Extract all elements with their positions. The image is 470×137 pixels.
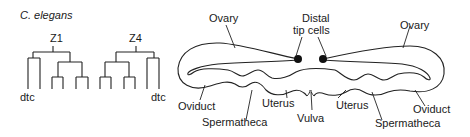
z4-label: Z4 [129,32,142,44]
left-ovary-inner [188,60,335,79]
oviduct-left-label: Oviduct [178,100,215,112]
oviduct-right-label: Oviduct [413,103,450,115]
c-elegans-gonad-figure: C. elegans Z1 dtc Z4 dtc [0,0,470,137]
z4-dtc-label: dtc [151,91,166,103]
distal-tip-label-line1: Distal [302,12,330,24]
spermatheca-right-label: Spermatheca [375,117,441,129]
ovary-right-label: Ovary [400,19,430,31]
vulva-label: Vulva [297,112,325,124]
gonad-diagram: Ovary Distal tip cells Ovary Oviduct Ute… [178,12,450,129]
species-label: C. elegans [20,9,73,21]
uterus-left-label: Uterus [262,97,295,109]
vulva-notch [307,90,314,96]
distal-tip-cell-left [294,55,302,63]
z1-label: Z1 [50,32,63,44]
uterus-right-label: Uterus [336,99,369,111]
left-ovary-outline [178,43,307,96]
distal-tip-label-line2: tip cells [293,24,330,36]
z1-lineage-tree: Z1 dtc [20,32,88,103]
right-ovary-inner [323,60,430,80]
distal-tip-cell-right [319,55,327,63]
spermatheca-left-label: Spermatheca [202,116,268,128]
z1-dtc-label: dtc [20,91,35,103]
z4-lineage-tree: Z4 dtc [100,32,166,103]
ovary-left-label: Ovary [209,12,239,24]
